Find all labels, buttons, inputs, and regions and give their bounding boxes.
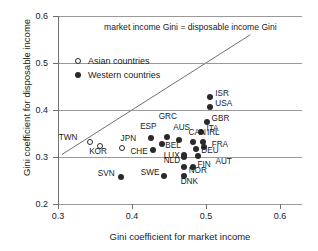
data-point-usa[interactable]	[207, 104, 213, 110]
x-axis-label: Gini coefficient for market income	[58, 231, 302, 242]
data-point-aut[interactable]	[195, 153, 201, 159]
point-label-dnk: DNK	[181, 177, 198, 186]
identity-line-annotation: market income Gini = disposable income G…	[104, 22, 277, 32]
data-point-che[interactable]	[150, 147, 156, 153]
data-point-svn[interactable]	[118, 174, 124, 180]
point-label-bel: BEL	[165, 141, 180, 150]
data-point-nor[interactable]	[181, 164, 187, 170]
legend-item-western: Western countries	[75, 70, 160, 80]
data-point-swe[interactable]	[161, 173, 167, 179]
point-label-deu: DEU	[201, 146, 218, 155]
point-label-aus: AUS	[173, 123, 190, 132]
point-label-che: CHE	[130, 147, 147, 156]
x-tick-label: 0.4	[115, 211, 149, 221]
x-tick-label: 0.5	[189, 211, 223, 221]
x-tick-label: 0.3	[41, 211, 75, 221]
data-point-deu[interactable]	[193, 146, 199, 152]
point-label-aut: AUT	[215, 157, 231, 166]
point-label-svn: SVN	[98, 169, 115, 178]
point-label-nor: NOR	[189, 166, 207, 175]
legend-label-western: Western countries	[88, 70, 160, 80]
point-label-esp: ESP	[140, 122, 156, 131]
point-label-gbr: GBR	[212, 114, 230, 123]
x-tick	[206, 204, 207, 209]
gini-scatter-figure: 0.20.30.40.50.6 0.30.40.50.6 TWNKORJPNIS…	[0, 0, 318, 251]
point-label-can: CAN	[189, 128, 206, 137]
point-label-isr: ISR	[215, 89, 229, 98]
y-axis-label: Gini coefficient for disposable income	[21, 0, 32, 198]
open-circle-icon	[75, 58, 81, 64]
legend-label-asian: Asian countries	[88, 56, 150, 66]
point-label-irl: IRL	[207, 128, 220, 137]
y-tick-label: 0.2	[18, 199, 48, 209]
data-point-grc[interactable]	[164, 134, 170, 140]
x-tick	[58, 204, 59, 209]
legend-item-asian: Asian countries	[75, 56, 150, 66]
x-tick	[132, 204, 133, 209]
point-label-twn: TWN	[59, 133, 78, 142]
point-label-nld: NLD	[164, 156, 180, 165]
filled-circle-icon	[75, 72, 81, 78]
data-point-isr[interactable]	[207, 94, 213, 100]
data-point-esp[interactable]	[148, 135, 154, 141]
data-point-can[interactable]	[190, 139, 196, 145]
point-label-grc: GRC	[159, 112, 177, 121]
data-point-twn[interactable]	[87, 139, 93, 145]
data-point-nld[interactable]	[181, 154, 187, 160]
point-label-jpn: JPN	[121, 134, 136, 143]
point-label-usa: USA	[215, 99, 232, 108]
x-tick	[280, 204, 281, 209]
plot-area: TWNKORJPNISRUSAGBRITAAUSGRCESPCANIRLBELF…	[58, 16, 302, 204]
point-label-kor: KOR	[89, 147, 107, 156]
x-tick-label: 0.6	[263, 211, 297, 221]
x-axis-line	[58, 204, 302, 205]
point-label-swe: SWE	[141, 168, 160, 177]
data-point-jpn[interactable]	[119, 145, 125, 151]
